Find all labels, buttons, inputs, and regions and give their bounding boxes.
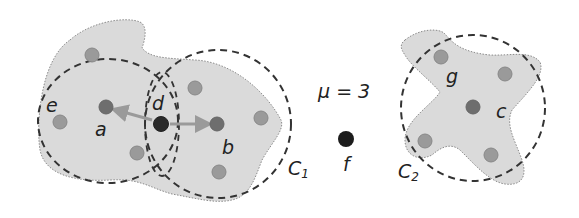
point-a bbox=[99, 100, 113, 114]
cluster-label-c1-letter: C bbox=[288, 157, 302, 179]
point-e bbox=[53, 115, 67, 129]
label-f: f bbox=[343, 153, 353, 175]
cluster-label-c2: C2 bbox=[398, 160, 419, 184]
point-c1-border-right bbox=[254, 111, 268, 125]
point-c2-border-left bbox=[418, 134, 432, 148]
label-c: c bbox=[496, 100, 507, 122]
point-d bbox=[154, 117, 169, 132]
dbscan-diagram: e a d b g c f C1 C2 μ = 3 bbox=[0, 0, 579, 218]
point-c1-border-top-right bbox=[188, 81, 202, 95]
cluster-label-c1-subscript: 1 bbox=[301, 167, 309, 181]
point-c bbox=[466, 100, 480, 114]
point-c2-border-bottom bbox=[484, 148, 498, 162]
label-b: b bbox=[222, 136, 234, 158]
label-a: a bbox=[95, 118, 107, 140]
cluster-label-c2-letter: C bbox=[398, 160, 412, 182]
point-c2-border-top-right bbox=[498, 67, 512, 81]
label-e: e bbox=[46, 94, 58, 116]
point-c1-border-top bbox=[85, 48, 99, 62]
point-b bbox=[210, 117, 224, 131]
label-d: d bbox=[152, 92, 165, 114]
point-g bbox=[434, 50, 448, 64]
point-f-noise bbox=[338, 131, 354, 147]
cluster-label-c1: C1 bbox=[288, 157, 309, 181]
label-g: g bbox=[446, 65, 458, 87]
cluster-label-c2-subscript: 2 bbox=[411, 170, 419, 184]
parameter-mu: μ = 3 bbox=[317, 80, 370, 102]
point-c1-border-bottom-right bbox=[212, 165, 226, 179]
point-c1-border-bottom-left bbox=[130, 146, 144, 160]
